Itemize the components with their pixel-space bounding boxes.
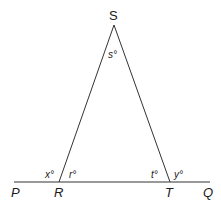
- vertex-label-t: T: [165, 185, 174, 200]
- angle-label-x: x°: [44, 169, 54, 180]
- angle-label-s: s°: [108, 49, 117, 60]
- vertex-label-r: R: [54, 185, 63, 200]
- side-sr: [59, 25, 114, 182]
- side-st: [114, 25, 170, 182]
- angle-label-t: t°: [151, 169, 158, 180]
- endpoint-label-q: Q: [203, 185, 213, 200]
- vertex-label-s: S: [109, 8, 118, 23]
- endpoint-label-p: P: [11, 185, 20, 200]
- angle-label-y: y°: [173, 169, 183, 180]
- triangle-diagram: S R T P Q s° x° r° t° y°: [0, 0, 221, 204]
- angle-label-r: r°: [69, 169, 76, 180]
